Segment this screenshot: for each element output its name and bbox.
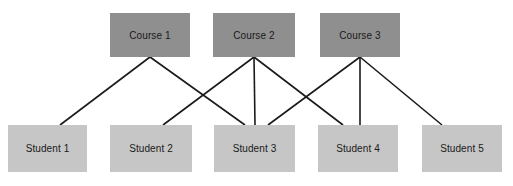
node-course-1[interactable]: Course 1 xyxy=(110,13,190,57)
edge-course3-student3 xyxy=(268,57,360,125)
node-label: Student 3 xyxy=(233,143,277,154)
edge-course3-student5 xyxy=(360,57,442,125)
node-course-3[interactable]: Course 3 xyxy=(320,13,400,57)
edge-course2-student3 xyxy=(254,57,255,125)
node-label: Course 2 xyxy=(233,30,274,41)
edge-course1-student3 xyxy=(150,57,245,125)
node-student-4[interactable]: Student 4 xyxy=(318,125,398,172)
bipartite-diagram: Course 1 Course 2 Course 3 Student 1 Stu… xyxy=(0,0,513,186)
node-label: Student 5 xyxy=(440,143,484,154)
node-label: Course 3 xyxy=(339,30,380,41)
node-course-2[interactable]: Course 2 xyxy=(213,13,295,57)
node-student-3[interactable]: Student 3 xyxy=(214,125,295,172)
node-label: Student 2 xyxy=(129,143,173,154)
edge-course2-student2 xyxy=(163,57,254,125)
node-label: Student 1 xyxy=(26,143,70,154)
node-label: Student 4 xyxy=(336,143,380,154)
edge-course2-student4 xyxy=(254,57,343,125)
node-student-5[interactable]: Student 5 xyxy=(422,125,502,172)
node-student-2[interactable]: Student 2 xyxy=(110,125,192,172)
node-label: Course 1 xyxy=(129,30,170,41)
edge-course1-student1 xyxy=(60,57,150,125)
node-student-1[interactable]: Student 1 xyxy=(8,125,87,172)
